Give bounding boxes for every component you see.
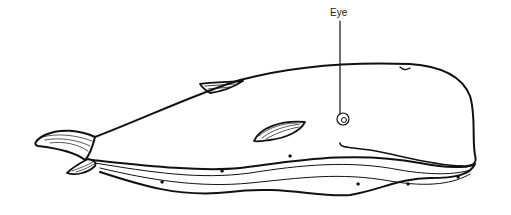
whale-diagram: Eye [0,0,511,215]
whale-illustration [0,0,511,215]
eye-label: Eye [330,7,347,18]
